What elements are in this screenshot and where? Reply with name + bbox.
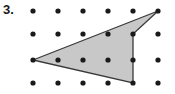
shaded-polygon — [33, 11, 158, 83]
grid-dot — [105, 8, 110, 13]
grid-dot — [105, 57, 110, 62]
grid-dot — [80, 57, 85, 62]
grid-dot — [155, 31, 160, 36]
grid-dot — [80, 8, 85, 13]
grid-dot — [130, 31, 135, 36]
grid-dot — [105, 80, 110, 85]
grid-dot — [55, 8, 60, 13]
grid-dot — [30, 8, 35, 13]
grid-dot — [30, 57, 35, 62]
geoboard-figure — [0, 0, 175, 94]
grid-dot — [55, 57, 60, 62]
grid-dot — [80, 80, 85, 85]
grid-dot — [55, 31, 60, 36]
grid-dot — [155, 8, 160, 13]
polygon-group — [33, 11, 158, 83]
grid-dot — [130, 57, 135, 62]
grid-dot — [155, 80, 160, 85]
grid-dot — [55, 80, 60, 85]
grid-dot — [30, 31, 35, 36]
grid-dot — [130, 8, 135, 13]
grid-dot — [30, 80, 35, 85]
grid-dot — [80, 31, 85, 36]
grid-dot — [105, 31, 110, 36]
grid-dot — [155, 57, 160, 62]
grid-dot — [130, 80, 135, 85]
figure-container: 3. — [0, 0, 175, 94]
